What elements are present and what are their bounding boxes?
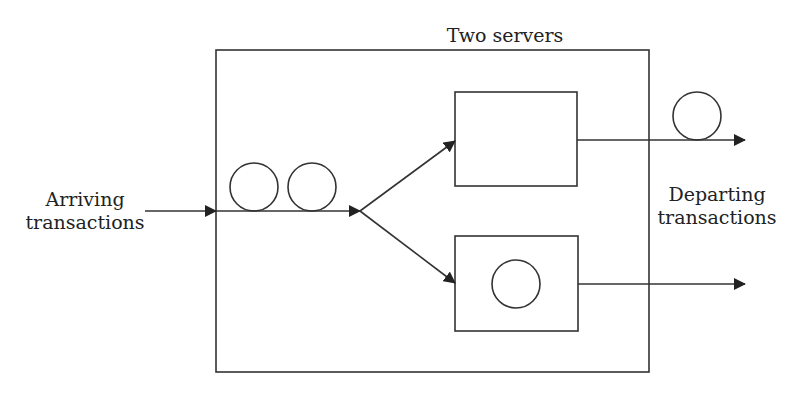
route-to-server-2-arrow (360, 211, 455, 283)
queued-transaction-circle (230, 163, 278, 211)
queued-transaction-circle (288, 163, 336, 211)
output-label-line2: transactions (652, 206, 782, 229)
route-to-server-1-arrow (360, 141, 455, 211)
input-label: Arriving transactions (20, 188, 150, 234)
output-label: Departing transactions (652, 183, 782, 229)
departed-transaction-circle (673, 92, 721, 140)
input-label-line2: transactions (20, 211, 150, 234)
server-1-box (455, 92, 577, 186)
server-2-box (455, 236, 578, 331)
output-label-line1: Departing (652, 183, 782, 206)
diagram-title: Two servers (440, 24, 570, 47)
in-service-transaction-circle (492, 260, 540, 308)
input-label-line1: Arriving (20, 188, 150, 211)
